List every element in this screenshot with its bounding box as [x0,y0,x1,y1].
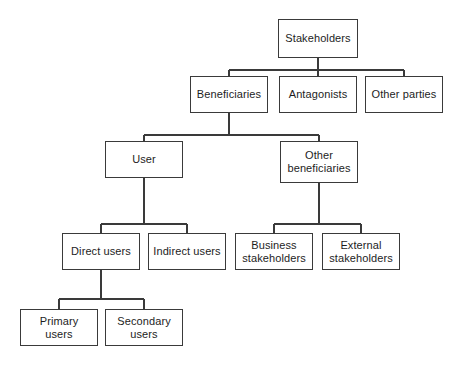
node-user[interactable]: User [105,141,183,178]
node-label: Beneficiaries [194,88,264,101]
node-external-stakeholders[interactable]: External stakeholders [322,233,400,270]
node-label: Primary users [37,315,82,341]
node-label: Direct users [68,245,134,258]
node-primary-users[interactable]: Primary users [20,309,98,346]
node-label: Other beneficiaries [284,149,353,175]
node-other-parties[interactable]: Other parties [365,76,443,113]
node-label: Other parties [369,88,440,101]
node-beneficiaries[interactable]: Beneficiaries [190,76,268,113]
node-label: Antagonists [286,88,351,101]
node-label: Stakeholders [282,32,353,45]
node-secondary-users[interactable]: Secondary users [105,309,183,346]
node-direct-users[interactable]: Direct users [62,233,140,270]
node-label: User [129,153,159,166]
node-stakeholders[interactable]: Stakeholders [278,19,358,58]
node-business-stakeholders[interactable]: Business stakeholders [235,233,313,270]
node-label: External stakeholders [326,239,396,265]
node-indirect-users[interactable]: Indirect users [148,233,226,270]
node-label: Business stakeholders [239,239,309,265]
node-label: Indirect users [150,245,223,258]
node-label: Secondary users [114,315,174,341]
diagram-canvas: StakeholdersBeneficiariesAntagonistsOthe… [0,0,460,366]
node-other-beneficiaries[interactable]: Other beneficiaries [280,141,358,183]
node-antagonists[interactable]: Antagonists [279,76,357,113]
